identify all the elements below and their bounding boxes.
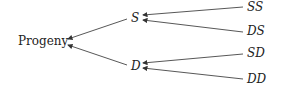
pedigree-diagram: Progeny S D SS DS SD DD [0, 0, 284, 89]
node-sd: SD [247, 46, 265, 60]
node-ds: DS [247, 24, 265, 38]
node-dd: DD [247, 72, 266, 86]
node-progeny: Progeny [18, 34, 68, 48]
node-ss: SS [247, 0, 263, 14]
node-d: D [131, 59, 141, 73]
node-s: S [131, 11, 139, 25]
